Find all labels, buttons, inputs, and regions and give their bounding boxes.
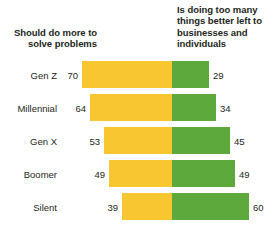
- row-value-left: 39: [107, 201, 118, 212]
- chart-row: Millennial 64 34: [0, 94, 274, 121]
- bar-right: [172, 160, 235, 187]
- column-header-left: Should do more to solve problems: [1, 27, 97, 50]
- row-value-left: 64: [75, 102, 86, 113]
- bar-right: [172, 61, 209, 88]
- chart-row: Boomer 49 49: [0, 160, 274, 187]
- bar-left: [104, 127, 172, 154]
- row-value-right: 34: [220, 102, 231, 113]
- diverging-bar-chart: Should do more to solve problems Is doin…: [0, 0, 274, 235]
- chart-row: Gen X 53 45: [0, 127, 274, 154]
- bar-left: [82, 61, 172, 88]
- row-value-right: 45: [234, 135, 245, 146]
- chart-row: Silent 39 60: [0, 193, 274, 220]
- chart-row: Gen Z 70 29: [0, 61, 274, 88]
- column-header-right: Is doing too many things better left to …: [177, 4, 273, 50]
- row-value-right: 60: [253, 201, 264, 212]
- row-value-left: 70: [67, 69, 78, 80]
- bar-left: [122, 193, 172, 220]
- row-label: Millennial: [17, 102, 57, 113]
- row-value-left: 53: [89, 135, 100, 146]
- row-value-right: 29: [213, 69, 224, 80]
- row-label: Gen X: [30, 135, 57, 146]
- bar-right: [172, 193, 249, 220]
- row-label: Gen Z: [31, 69, 57, 80]
- row-value-right: 49: [239, 168, 250, 179]
- row-label: Silent: [33, 201, 57, 212]
- row-value-left: 49: [94, 168, 105, 179]
- bar-right: [172, 127, 230, 154]
- bar-left: [90, 94, 172, 121]
- bar-left: [109, 160, 172, 187]
- row-label: Boomer: [24, 168, 57, 179]
- bar-right: [172, 94, 216, 121]
